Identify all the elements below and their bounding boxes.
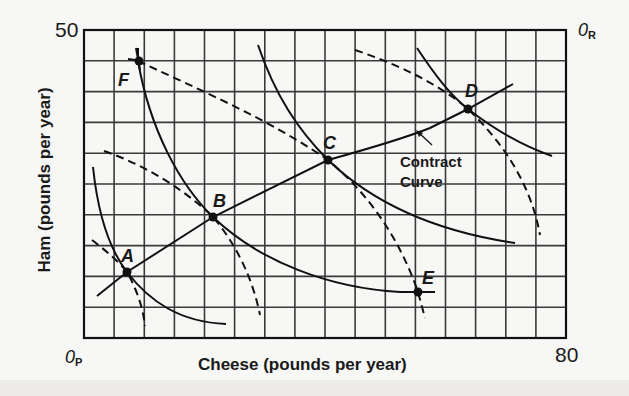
contract-curve-label-line1: Contract [400, 152, 462, 172]
p-indifference-curve-4 [417, 48, 552, 156]
origin-r-sub: R [588, 29, 596, 41]
y-axis-title: Ham (pounds per year) [35, 87, 55, 272]
edgeworth-box-diagram [0, 0, 629, 396]
origin-r-zero: 0 [578, 20, 588, 40]
point-d-marker [464, 105, 473, 114]
x-max-tick-label: 80 [555, 343, 578, 367]
point-f-marker [135, 57, 144, 66]
r-indifference-curve-2 [104, 151, 260, 315]
point-e-label: E [422, 268, 434, 289]
point-c-label: C [323, 133, 336, 154]
contract-curve-label-line2: Curve [400, 172, 462, 192]
point-c-marker [324, 156, 333, 165]
origin-p-zero: 0 [65, 347, 75, 367]
contract-curve-label: Contract Curve [400, 152, 462, 192]
origin-r-label: 0R [578, 20, 596, 41]
point-d-label: D [465, 81, 478, 102]
point-b-marker [209, 213, 218, 222]
point-a-marker [123, 268, 132, 277]
p-indifference-curve-3 [258, 45, 515, 243]
x-axis-title: Cheese (pounds per year) [198, 355, 407, 375]
origin-p-label: 0P [65, 347, 82, 368]
point-b-label: B [213, 191, 226, 212]
p-indifference-curve-2 [138, 48, 433, 292]
r-indifference-curve-4 [355, 50, 540, 235]
origin-p-sub: P [75, 356, 82, 368]
y-max-tick-label: 50 [55, 18, 78, 42]
grid [84, 30, 566, 338]
point-a-label: A [121, 246, 134, 267]
point-f-label: F [118, 70, 129, 91]
